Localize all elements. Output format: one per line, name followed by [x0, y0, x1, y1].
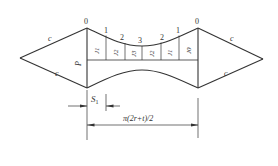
cell-label: J3 [130, 50, 138, 57]
station-label: 2 [160, 33, 164, 42]
station-labels: 0 1 2 3 2 1 0 [84, 17, 199, 45]
cell-label: J1 [93, 47, 101, 54]
cell-label: J2 [112, 49, 120, 56]
cell-label: J0 [185, 47, 193, 54]
half-circumference-dimension: π(2r+t)/2 [87, 98, 198, 138]
cell-label: J2 [148, 50, 156, 57]
station-label: 2 [120, 33, 124, 42]
development-diagram: 0 1 2 3 2 1 0 J1 J2 J3 J2 J1 J0 c c c c … [0, 0, 278, 166]
left-triangle [20, 28, 87, 88]
station-label: 0 [84, 17, 88, 26]
station-label: 0 [195, 17, 199, 26]
edge-label-right-lower: c [224, 69, 228, 78]
station-label: 3 [138, 36, 142, 45]
edge-label-right-upper: c [230, 34, 234, 43]
height-label-p: P [74, 61, 83, 67]
s1-dimension: S1 [68, 90, 120, 140]
cell-labels: J1 J2 J3 J2 J1 J0 [93, 47, 193, 57]
bottom-curve [87, 70, 198, 88]
s1-label: S1 [91, 94, 99, 105]
station-label: 1 [104, 26, 108, 35]
station-label: 1 [176, 26, 180, 35]
edge-label-left-lower: c [55, 69, 59, 78]
half-circumference-label: π(2r+t)/2 [123, 114, 153, 123]
edge-label-left-upper: c [48, 34, 52, 43]
cell-label: J1 [166, 49, 174, 56]
